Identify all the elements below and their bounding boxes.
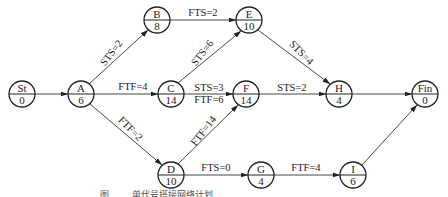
edge-c-e: [178, 31, 241, 83]
node-duration: 4: [258, 175, 264, 187]
node-name: B: [153, 8, 160, 20]
node-c: C 14: [158, 81, 184, 107]
node-duration: 10: [244, 20, 256, 32]
node-name: Fin: [418, 82, 433, 94]
node-name: I: [351, 163, 355, 175]
node-duration: 0: [19, 94, 25, 106]
edge-label-c-f-sts: STS=3: [194, 82, 223, 93]
node-name: H: [335, 82, 343, 94]
node-name: C: [167, 82, 174, 94]
node-b: B 8: [144, 7, 170, 33]
node-duration: 14: [166, 94, 178, 106]
edge-a-b: [89, 30, 148, 84]
node-duration: 14: [241, 94, 253, 106]
node-name: G: [257, 163, 265, 175]
node-e: E 10: [236, 7, 262, 33]
node-a: A 6: [68, 81, 94, 107]
node-name: D: [167, 163, 175, 175]
figure-caption: 图 …… 单代号搭接网络计划: [100, 188, 213, 197]
node-name: E: [246, 8, 253, 20]
node-name: F: [243, 82, 249, 94]
edge-label-a-c: FTF=4: [118, 81, 148, 92]
node-fin: Fin 0: [412, 81, 438, 107]
node-i: I 6: [340, 162, 366, 188]
node-d: D 10: [158, 162, 184, 188]
node-h: H 4: [326, 81, 352, 107]
node-duration: 8: [154, 20, 160, 32]
edge-label-d-g: FTS=0: [201, 162, 230, 173]
node-duration: 0: [422, 94, 428, 106]
edge-label-c-f-ftf: FTF=6: [194, 94, 223, 105]
edge-labels: STS=2 FTF=4 FTF=2 FTS=2 STS=6 STS=3 FTF=…: [98, 7, 321, 173]
network-diagram: STS=2 FTF=4 FTF=2 FTS=2 STS=6 STS=3 FTF=…: [0, 0, 448, 197]
node-duration: 10: [166, 175, 178, 187]
edge-d-f: [178, 105, 238, 164]
edge-label-g-i: FTF=4: [291, 162, 321, 173]
node-name: St: [17, 82, 26, 94]
node-duration: 4: [336, 94, 342, 106]
node-name: A: [77, 82, 85, 94]
edge-a-d: [90, 104, 162, 165]
edge-i-fin: [362, 105, 417, 165]
edge-label-b-e: FTS=2: [188, 7, 217, 18]
edge-label-d-f: FTF=14: [188, 113, 218, 148]
edge-label-f-h: STS=2: [277, 82, 306, 93]
node-st: St 0: [9, 81, 35, 107]
node-g: G 4: [248, 162, 274, 188]
node-duration: 6: [78, 94, 84, 106]
node-duration: 6: [350, 175, 356, 187]
node-f: F 14: [233, 81, 259, 107]
